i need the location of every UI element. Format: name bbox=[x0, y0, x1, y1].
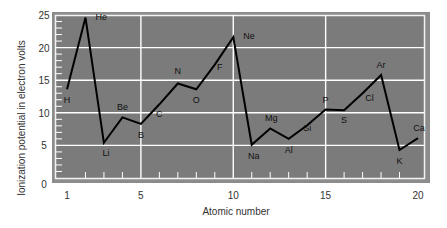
element-label-h: H bbox=[64, 95, 71, 105]
element-label-be: Be bbox=[117, 102, 128, 112]
x-tick-label: 1 bbox=[64, 190, 70, 201]
element-label-b: B bbox=[138, 130, 144, 140]
element-label-ne: Ne bbox=[243, 31, 255, 41]
x-tick-label: 20 bbox=[412, 190, 424, 201]
element-label-ar: Ar bbox=[377, 60, 386, 70]
element-label-he: He bbox=[95, 12, 107, 22]
element-label-p: P bbox=[323, 95, 329, 105]
ionization-chart: 0510152025 15101520 HHeLiBeBCNOFNeNaMgAl… bbox=[0, 0, 447, 228]
element-label-cl: Cl bbox=[365, 93, 374, 103]
element-label-ca: Ca bbox=[413, 123, 425, 133]
y-axis-title: Ionization potential in electron volts bbox=[16, 40, 27, 196]
element-label-f: F bbox=[217, 62, 223, 72]
element-label-li: Li bbox=[102, 148, 109, 158]
x-axis-title: Atomic number bbox=[202, 206, 270, 217]
element-label-na: Na bbox=[248, 151, 260, 161]
y-tick-label: 5 bbox=[41, 140, 47, 151]
y-tick-label: 10 bbox=[38, 108, 50, 119]
element-label-s: S bbox=[341, 115, 347, 125]
y-tick-label: 15 bbox=[38, 75, 50, 86]
y-tick-label: 0 bbox=[41, 179, 47, 190]
x-tick-label: 10 bbox=[228, 190, 240, 201]
element-label-al: Al bbox=[285, 145, 293, 155]
x-tick-label: 15 bbox=[320, 190, 332, 201]
element-label-n: N bbox=[175, 66, 182, 76]
element-label-mg: Mg bbox=[265, 113, 278, 123]
x-tick-label: 5 bbox=[138, 190, 144, 201]
element-label-si: Si bbox=[303, 123, 311, 133]
y-tick-label: 20 bbox=[38, 43, 50, 54]
y-tick-label: 25 bbox=[38, 10, 50, 21]
element-label-c: C bbox=[156, 109, 163, 119]
y-tick-labels: 0510152025 bbox=[38, 10, 50, 190]
x-tick-labels: 15101520 bbox=[64, 190, 424, 201]
element-label-k: K bbox=[397, 156, 403, 166]
element-label-o: O bbox=[193, 95, 200, 105]
